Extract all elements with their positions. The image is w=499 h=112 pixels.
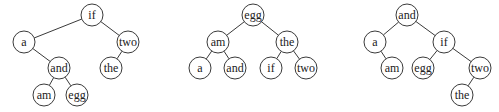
tree-1: ifatwoandtheamegg bbox=[13, 4, 139, 106]
node-label: a bbox=[372, 35, 378, 49]
node-label: if bbox=[440, 35, 447, 49]
edge-two-the bbox=[468, 77, 474, 86]
node-label: and bbox=[50, 61, 67, 75]
node-label: two bbox=[297, 61, 315, 75]
node-label: am bbox=[211, 35, 226, 49]
edge-and-a bbox=[383, 22, 398, 35]
node-label: and bbox=[226, 61, 243, 75]
node-am: am bbox=[381, 57, 403, 79]
node-label: the bbox=[280, 35, 295, 49]
node-the: the bbox=[451, 84, 473, 106]
node-label: a bbox=[197, 61, 203, 75]
node-two: two bbox=[469, 57, 491, 79]
edge-if-two bbox=[101, 22, 119, 36]
node-label: the bbox=[104, 61, 119, 75]
node-label: egg bbox=[68, 88, 85, 102]
node-egg: egg bbox=[412, 57, 434, 79]
edge-if-two bbox=[453, 48, 471, 61]
node-label: am bbox=[385, 61, 400, 75]
edge-and-if bbox=[416, 21, 435, 35]
node-if: if bbox=[81, 4, 103, 26]
edge-a-and bbox=[33, 49, 50, 62]
node-label: a bbox=[21, 35, 27, 49]
node-label: egg bbox=[414, 61, 431, 75]
node-and: and bbox=[396, 4, 418, 26]
node-if: if bbox=[260, 57, 282, 79]
edge-am-and bbox=[224, 51, 229, 59]
node-a: a bbox=[364, 31, 386, 53]
node-label: if bbox=[88, 8, 95, 22]
node-a: a bbox=[13, 31, 35, 53]
tree-2: eggamtheaandiftwo bbox=[189, 4, 317, 79]
node-the: the bbox=[100, 57, 122, 79]
edge-egg-am bbox=[227, 22, 245, 36]
edge-the-if bbox=[277, 51, 281, 58]
node-and: and bbox=[224, 57, 246, 79]
node-two: two bbox=[295, 57, 317, 79]
node-label: and bbox=[398, 8, 415, 22]
node-label: am bbox=[37, 88, 52, 102]
edge-a-am bbox=[381, 51, 386, 59]
node-am: am bbox=[207, 31, 229, 53]
node-label: egg bbox=[244, 8, 261, 22]
node-label: two bbox=[471, 61, 489, 75]
tree-3: andaifameggtwothe bbox=[364, 4, 491, 106]
node-and: and bbox=[48, 57, 70, 79]
edge-egg-the bbox=[262, 22, 279, 35]
edge-two-the bbox=[117, 51, 122, 59]
node-label: two bbox=[119, 35, 137, 49]
node-if: if bbox=[433, 31, 455, 53]
node-egg: egg bbox=[242, 4, 264, 26]
edge-and-am bbox=[49, 78, 53, 86]
edge-if-egg bbox=[430, 51, 437, 60]
binary-search-trees-diagram: ifatwoandtheameggeggamtheaandiftwoandaif… bbox=[0, 0, 499, 112]
edge-the-two bbox=[293, 51, 299, 59]
edge-am-a bbox=[206, 51, 211, 59]
node-a: a bbox=[189, 57, 211, 79]
node-two: two bbox=[117, 31, 139, 53]
edge-if-a bbox=[34, 19, 82, 38]
node-label: if bbox=[267, 61, 274, 75]
node-label: the bbox=[455, 88, 470, 102]
node-the: the bbox=[276, 31, 298, 53]
node-egg: egg bbox=[66, 84, 88, 106]
node-am: am bbox=[33, 84, 55, 106]
edge-and-egg bbox=[65, 77, 71, 86]
